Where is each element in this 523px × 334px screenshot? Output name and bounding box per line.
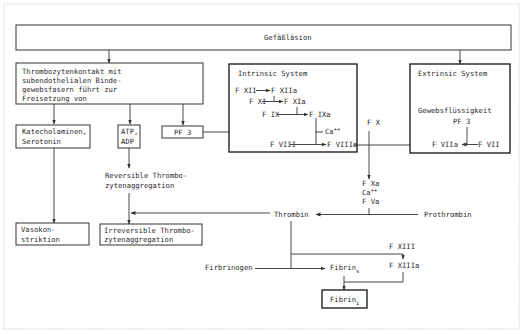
pf3-box: PF 3 <box>162 126 203 138</box>
title-gefaesslaesion: Gefäßläsion <box>264 33 312 42</box>
vasokonstriktion-line-1: Vasokon- <box>21 225 56 234</box>
irreversible-line-2: zytenaggregation <box>104 235 173 244</box>
reversible-aggregation-text: Reversible Thrombo- zytenaggregation <box>105 171 187 190</box>
pf3-label: PF 3 <box>174 128 191 137</box>
outer-frame <box>4 4 519 329</box>
factor-xia: F XIa <box>284 97 306 106</box>
factor-xiii: F XIII <box>389 242 415 251</box>
ca-ion-common: Ca++ <box>362 187 378 197</box>
fibrin-insoluble-box: Fibrini <box>322 290 367 308</box>
factor-va: F Va <box>362 197 379 206</box>
factor-xii: F XII <box>235 86 257 95</box>
katecholamine-line-1: Katecholaminen, <box>22 127 87 136</box>
extrinsic-pf3-label: PF 3 <box>453 117 470 126</box>
gefaesslaesion-box: Gefäßläsion <box>16 25 511 50</box>
platelet-line-3: gewebsfasern führt zur <box>22 85 118 94</box>
factor-xiiia: F XIIIa <box>389 261 419 270</box>
tissue-fluid-label: Gewebsflüssigkeit <box>418 106 492 115</box>
katecholamine-line-2: Serotonin <box>22 137 61 146</box>
factor-xiia: F XIIa <box>271 86 297 95</box>
coagulation-diagram: Gefäßläsion Thrombozytenkontakt mit sube… <box>0 0 523 334</box>
fibrinogen-label: Firbrinogen <box>205 263 253 272</box>
vasokonstriktion-box: Vasokon- striktion <box>16 223 89 245</box>
intrinsic-title: Intrinsic System <box>238 69 307 78</box>
extrinsic-title: Extrinsic System <box>418 69 487 78</box>
fibrin-soluble-label: Fibrins <box>330 263 359 274</box>
extrinsic-system-box: Extrinsic System Gewebsflüssigkeit PF 3 … <box>410 64 510 153</box>
prothrombin-label: Prothrombin <box>424 210 472 219</box>
factor-x: F X <box>367 118 381 127</box>
factor-viia: F VIIa <box>432 140 458 149</box>
thrombin-label: Thrombin <box>274 210 309 219</box>
factor-vii: F VII <box>478 140 500 149</box>
platelet-line-2: subendothelialen Binde- <box>22 76 122 85</box>
platelet-line-1: Thrombozytenkontakt mit <box>22 67 122 76</box>
irreversible-line-1: Irreversible Thrombo- <box>104 226 195 235</box>
prothrombinase-complex: F Xa Ca++ F Va <box>362 179 379 206</box>
reversible-line-1: Reversible Thrombo- <box>105 171 187 180</box>
intrinsic-system-box: Intrinsic System F XII F XIIa F XI F XIa… <box>229 64 357 152</box>
platelet-line-4: Freisetzung von <box>22 94 87 103</box>
reversible-line-2: zytenaggregation <box>105 181 174 190</box>
factor-ixa: F IXa <box>309 110 331 119</box>
adp-label: ADP <box>121 137 134 146</box>
atp-adp-box: ATP, ADP <box>118 125 140 148</box>
platelet-contact-box: Thrombozytenkontakt mit subendothelialen… <box>16 63 203 104</box>
irreversible-aggregation-box: Irreversible Thrombo- zytenaggregation <box>100 224 202 245</box>
katecholamine-box: Katecholaminen, Serotonin <box>16 125 90 148</box>
atp-label: ATP, <box>121 127 138 136</box>
vasokonstriktion-line-2: striktion <box>21 235 60 244</box>
factor-viiia: F VIIIa <box>327 140 357 149</box>
